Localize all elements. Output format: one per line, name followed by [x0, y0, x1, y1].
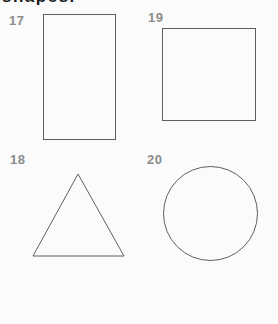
triangle-outline — [33, 174, 124, 256]
circle-outline — [164, 167, 258, 261]
square-shape — [162, 28, 257, 122]
item-number-19: 19 — [148, 10, 163, 25]
worksheet-page: shapes. 17 19 18 20 — [0, 0, 278, 324]
square-outline — [163, 29, 256, 121]
circle-shape — [161, 164, 260, 263]
heading-text-fragment: shapes. — [2, 0, 76, 7]
triangle-shape — [31, 172, 126, 258]
rectangle-shape — [43, 14, 117, 141]
item-number-17: 17 — [9, 13, 24, 28]
rectangle-outline — [44, 15, 116, 140]
item-number-18: 18 — [10, 152, 25, 167]
